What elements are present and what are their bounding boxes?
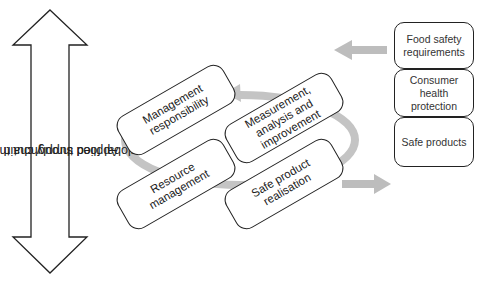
side-arrow-label: Applied throughout the global food suppl… xyxy=(41,80,85,220)
box-food-safety-requirements: Food safety requirements xyxy=(394,22,474,69)
box-label: Safe products xyxy=(402,136,467,149)
box-label: Consumer health protection xyxy=(406,74,462,113)
box-safe-products: Safe products xyxy=(394,117,474,167)
side-arrow-label-line2: global food supply chain xyxy=(3,143,137,158)
box-label: Food safety requirements xyxy=(395,33,473,59)
box-consumer-health-protection: Consumer health protection xyxy=(394,69,474,117)
input-arrow-icon xyxy=(334,40,387,60)
output-arrow-icon xyxy=(342,174,391,194)
